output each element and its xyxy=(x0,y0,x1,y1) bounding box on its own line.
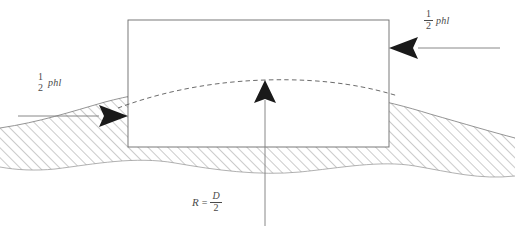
equals-sign: = xyxy=(202,197,208,208)
load-label-right: 1 2 phl xyxy=(424,9,449,31)
diagram-graphics xyxy=(0,0,515,231)
right-load-arrow-head xyxy=(389,37,418,59)
structure-rectangle xyxy=(128,20,389,147)
fraction-denominator: 2 xyxy=(210,203,221,214)
fraction-d-over-two: D 2 xyxy=(210,191,221,213)
load-variable-left: phl xyxy=(48,77,61,88)
fraction-one-half-right: 1 2 xyxy=(424,9,433,31)
fraction-denominator: 2 xyxy=(36,83,45,94)
fraction-numerator: D xyxy=(210,191,221,203)
diagram-canvas: 1 2 phl 1 2 phl R= D 2 xyxy=(0,0,515,231)
fraction-one-half-left: 1 2 xyxy=(36,72,45,93)
fraction-numerator: 1 xyxy=(36,72,45,83)
fraction-denominator: 2 xyxy=(424,21,433,32)
right-load-arrow xyxy=(389,37,500,59)
load-label-left: 1 2 phl xyxy=(36,72,61,93)
radius-label: R= D 2 xyxy=(192,191,222,213)
load-variable-right: phl xyxy=(436,15,449,26)
radius-symbol: R xyxy=(192,196,199,208)
fraction-numerator: 1 xyxy=(424,9,433,21)
